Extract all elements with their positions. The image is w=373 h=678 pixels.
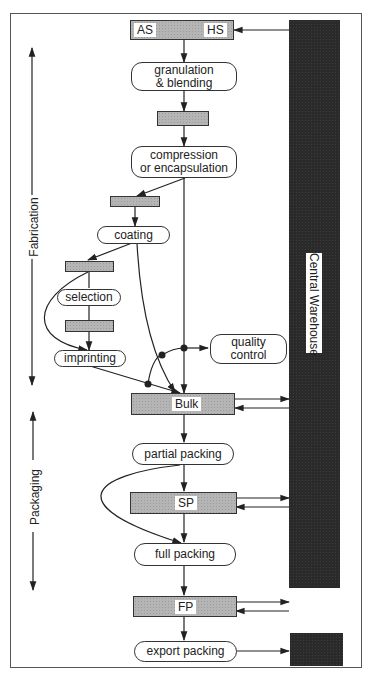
stock-coated [65,261,114,272]
stock-sp-label: SP [175,496,197,510]
process-selection: selection [57,289,121,306]
stock-fp: FP [133,596,237,617]
stock-bulk: Bulk [131,393,235,415]
fabrication-phase-label: Fabrication [27,195,41,259]
flow-connectors [0,0,373,678]
stock-bulk-label: Bulk [172,397,201,411]
stock-as-label: AS [134,23,156,37]
packaging-phase-label: Packaging [28,466,42,528]
stock-selected [65,320,114,332]
process-quality-control: quality control [210,334,287,364]
stock-as-hs: AS HS [130,20,234,40]
stock-granulate [157,111,209,126]
process-granulation-blending: granulation & blending [131,62,237,91]
process-export-packing: export packing [134,641,237,662]
process-compression-encapsulation: compression or encapsulation [131,146,237,178]
process-partial-packing: partial packing [132,443,234,465]
stock-cores [110,196,160,207]
process-full-packing: full packing [134,543,236,566]
process-coating: coating [97,226,170,244]
stock-sp: SP [130,492,237,514]
stock-fp-label: FP [175,600,196,614]
process-imprinting: imprinting [54,350,126,367]
stock-hs-label: HS [204,23,227,37]
